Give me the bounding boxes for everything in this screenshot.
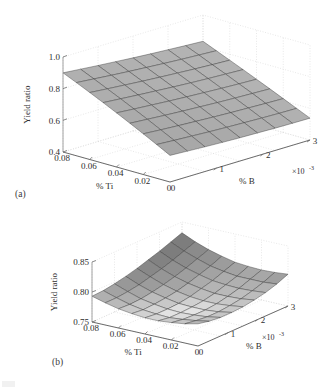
z-axis-title: Yield ratio xyxy=(49,272,59,311)
y-axis-tick-label: 1 xyxy=(231,329,236,339)
y-axis-tick-label: 0 xyxy=(171,183,176,193)
panel-label-b: (b) xyxy=(52,357,63,367)
x-axis-tick-label: 0.04 xyxy=(108,168,124,178)
z-axis-title: Yield ratio xyxy=(22,85,32,124)
surface-plot-a-canvas: 1.00.80.60.4Yield ratio0.080.060.040.020… xyxy=(0,0,336,210)
z-axis-tick-label: 0.8 xyxy=(49,84,61,94)
x-axis-tick-label: 0.08 xyxy=(54,153,70,163)
y-axis-exponent-power: -3 xyxy=(279,331,284,337)
y-axis-exponent-base: ×10 xyxy=(292,167,305,176)
surface-plot-panel-b: 0.850.800.75Yield ratio0.080.060.040.020… xyxy=(0,212,336,387)
y-axis-tick-label: 2 xyxy=(266,150,271,160)
z-axis-tick-label: 0.80 xyxy=(73,287,89,297)
scan-edge-artifact xyxy=(2,381,15,387)
x-axis-tick-label: 0.02 xyxy=(134,176,150,186)
z-axis-tick-label: 1.0 xyxy=(49,52,61,62)
y-axis-tick-label: 0 xyxy=(199,347,204,357)
y-axis-tick-label: 3 xyxy=(291,302,296,312)
y-axis-title: % B xyxy=(239,176,255,186)
z-axis-tick-label: 0.85 xyxy=(73,257,89,267)
y-axis-title: % B xyxy=(246,341,262,351)
y-axis-tick-label: 1 xyxy=(219,164,224,174)
x-axis-tick-label: 0.06 xyxy=(81,161,97,171)
x-axis-tick-label: 0.02 xyxy=(163,341,179,351)
figure-container: 1.00.80.60.4Yield ratio0.080.060.040.020… xyxy=(0,0,336,390)
y-axis-tick-label: 2 xyxy=(261,315,266,325)
x-axis-tick-label: 0.06 xyxy=(110,329,126,339)
y-axis-exponent-power: -3 xyxy=(309,165,314,171)
x-axis-title: % Ti xyxy=(96,181,114,191)
x-axis-tick-label: 0.08 xyxy=(83,323,99,333)
x-axis-tick-label: 0.04 xyxy=(136,335,152,345)
surface-plot-b-canvas: 0.850.800.75Yield ratio0.080.060.040.020… xyxy=(0,212,336,387)
panel-label-a: (a) xyxy=(15,189,26,199)
x-axis-title: % Ti xyxy=(124,347,142,357)
z-axis-tick-label: 0.6 xyxy=(49,116,61,126)
y-axis-tick-label: 3 xyxy=(313,136,318,146)
y-axis-exponent-base: ×10 xyxy=(262,333,275,342)
surface-plot-panel-a: 1.00.80.60.4Yield ratio0.080.060.040.020… xyxy=(0,0,336,210)
